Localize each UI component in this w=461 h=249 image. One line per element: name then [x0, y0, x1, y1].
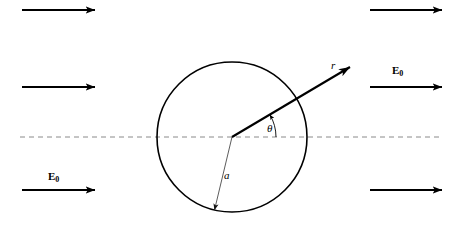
angle-label-theta: θ — [267, 123, 272, 134]
field-label-left-subscript: 0 — [55, 175, 59, 184]
field-label-left: E0 — [48, 171, 59, 184]
figure-canvas — [0, 0, 461, 249]
radial-vector-r — [232, 67, 350, 137]
field-label-right-subscript: 0 — [399, 69, 403, 78]
radial-vector-label-r: r — [331, 60, 335, 71]
radius-label-a: a — [224, 170, 230, 181]
physics-diagram-figure: E0 E0 r a θ — [0, 0, 461, 249]
field-label-right: E0 — [392, 65, 403, 78]
